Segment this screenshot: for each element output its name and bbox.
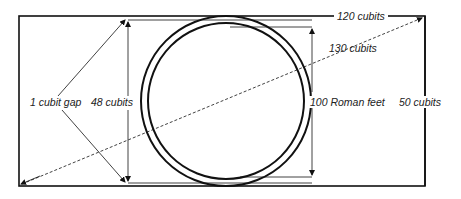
gap-arrow-down [62,110,125,182]
label-1-cubit-gap: 1 cubit gap [29,96,82,108]
label-50-cubits: 50 cubits [398,96,442,108]
outer-circle [141,16,311,186]
label-130-cubits: 130 cubits [329,42,377,54]
diagonal-130-start [21,176,40,184]
inner-circle [148,23,304,179]
label-120-cubits: 120 cubits [334,10,388,22]
label-100-roman-feet: 100 Roman feet [309,96,386,108]
label-48-cubits: 48 cubits [90,96,134,108]
gap-arrow-up [58,20,125,96]
